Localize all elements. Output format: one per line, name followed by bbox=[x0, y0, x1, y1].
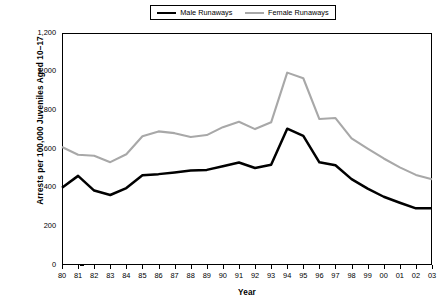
x-tick-mark bbox=[400, 265, 401, 269]
y-tick-label: 1,000 bbox=[22, 67, 56, 75]
x-tick-mark bbox=[384, 265, 385, 269]
y-tick-label: 600 bbox=[22, 145, 56, 153]
y-tick-label: 0 bbox=[22, 261, 56, 269]
x-tick-mark bbox=[416, 265, 417, 269]
x-tick-mark bbox=[319, 265, 320, 269]
x-tick-mark bbox=[62, 265, 63, 269]
x-axis-title: Year bbox=[62, 288, 432, 297]
plot-lines bbox=[62, 33, 432, 265]
x-tick-mark bbox=[432, 265, 433, 269]
x-tick-mark bbox=[110, 265, 111, 269]
x-tick-mark bbox=[175, 265, 176, 269]
y-tick-label: 200 bbox=[22, 222, 56, 230]
x-tick-mark bbox=[352, 265, 353, 269]
x-tick-mark bbox=[191, 265, 192, 269]
legend-label-male: Male Runaways bbox=[180, 8, 232, 17]
x-tick-mark bbox=[303, 265, 304, 269]
x-tick-mark bbox=[287, 265, 288, 269]
x-tick-mark bbox=[239, 265, 240, 269]
legend-label-female: Female Runaways bbox=[268, 8, 329, 17]
y-tick-label: 1,200 bbox=[22, 29, 56, 37]
x-tick-mark bbox=[271, 265, 272, 269]
y-axis-ticks: 02004006008001,0001,200 bbox=[22, 0, 56, 306]
legend-item-male: Male Runaways bbox=[157, 8, 232, 17]
x-tick-mark bbox=[94, 265, 95, 269]
x-tick-mark bbox=[207, 265, 208, 269]
y-tick-label: 400 bbox=[22, 183, 56, 191]
line-chart: Male Runaways Female Runaways Arrests pe… bbox=[0, 0, 445, 306]
series-line-male bbox=[62, 129, 432, 209]
legend-line-swatch-female-icon bbox=[245, 12, 264, 14]
x-tick-mark bbox=[255, 265, 256, 269]
y-tick-label: 800 bbox=[22, 106, 56, 114]
x-tick-mark bbox=[126, 265, 127, 269]
legend-line-swatch-male-icon bbox=[157, 12, 176, 14]
x-tick-mark bbox=[335, 265, 336, 269]
x-tick-mark bbox=[368, 265, 369, 269]
x-tick-label: 03 bbox=[422, 271, 442, 280]
x-tick-mark bbox=[159, 265, 160, 269]
y-tick-mark bbox=[80, 265, 84, 266]
x-tick-mark bbox=[78, 265, 79, 269]
series-line-female bbox=[62, 73, 432, 180]
legend-item-female: Female Runaways bbox=[245, 8, 329, 17]
chart-legend: Male Runaways Female Runaways bbox=[150, 5, 336, 20]
x-tick-mark bbox=[142, 265, 143, 269]
x-tick-mark bbox=[223, 265, 224, 269]
